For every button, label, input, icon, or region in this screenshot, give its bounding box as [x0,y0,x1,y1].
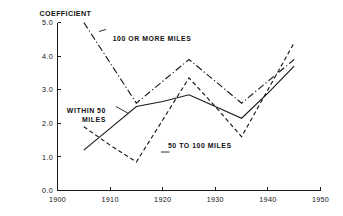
series-annotations: 100 OR MORE MILESWITHIN 50MILES50 TO 100… [67,30,232,153]
x-tick-label: 1920 [154,195,171,204]
x-tick-label: 1950 [312,195,329,204]
series-label: WITHIN 50 [67,107,106,114]
y-axis-title: COEFFICIENT [40,9,92,18]
x-tick-label: 1910 [101,195,118,204]
x-tick-label: 1930 [207,195,224,204]
y-tick-label: 2.0 [42,119,53,128]
series-label: 50 TO 100 MILES [168,142,232,149]
x-tick-label: 1900 [49,195,66,204]
y-tick-label: 5.0 [42,18,53,27]
y-tick-label: 3.0 [42,85,53,94]
data-series [84,23,294,162]
line-chart: 0.01.02.03.04.05.01900191019201930194019… [0,0,343,216]
series-label: 100 OR MORE MILES [113,35,192,42]
y-tick-label: 4.0 [42,52,53,61]
annotation-leader-line [99,30,106,32]
x-tick-label: 1940 [259,195,276,204]
y-tick-label: 1.0 [42,153,53,162]
annotation-leader-line [116,107,129,114]
series-label: MILES [82,116,106,123]
chart-container: 0.01.02.03.04.05.01900191019201930194019… [0,0,343,216]
